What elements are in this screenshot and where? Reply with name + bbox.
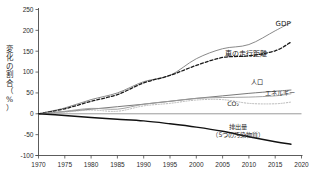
series-emissions-five-pollutants <box>39 114 291 144</box>
series-GDP <box>39 22 291 113</box>
y-tick-label: 0 <box>30 110 34 117</box>
y-tick-label: 200 <box>23 27 34 34</box>
x-tick-label: 1970 <box>31 161 46 168</box>
x-tick-label: 1980 <box>84 161 99 168</box>
y-tick-label: 100 <box>23 68 34 75</box>
x-tick-label: 1985 <box>110 161 125 168</box>
x-tick-label: 2000 <box>189 161 204 168</box>
series-line-GDP <box>39 22 291 113</box>
x-tick-label: 2020 <box>294 161 309 168</box>
series-label-co2: CO₂ <box>227 100 239 107</box>
y-tick-label: 250 <box>23 6 34 13</box>
series-line-emissions-five-pollutants <box>39 114 291 144</box>
chart-container: -100-50050100150200250197019751980198519… <box>0 0 315 182</box>
x-tick-label: 2005 <box>215 161 230 168</box>
x-tick-label: 1975 <box>58 161 73 168</box>
x-tick-label: 2015 <box>268 161 283 168</box>
series-label-population: 人口 <box>251 78 263 86</box>
y-tick-label: 150 <box>23 48 34 55</box>
series-label-GDP: GDP <box>276 20 291 28</box>
y-tick-label: -100 <box>20 152 33 159</box>
y-axis-title-char: ） <box>6 104 13 113</box>
line-chart: -100-50050100150200250197019751980198519… <box>0 0 315 182</box>
series-label-energy: エネルギー <box>265 89 295 96</box>
series-label-emissions-five-pollutants-line2: （5つの汚染物質） <box>212 131 264 139</box>
x-tick-label: 2010 <box>242 161 257 168</box>
x-tick-label: 1995 <box>163 161 178 168</box>
y-tick-label: -50 <box>24 131 34 138</box>
series-label-emissions-five-pollutants: 排出量 <box>229 123 247 131</box>
series-label-vehicle-miles-traveled: 車の走行距離 <box>225 49 267 58</box>
x-tick-label: 1990 <box>136 161 151 168</box>
y-tick-label: 50 <box>26 89 34 96</box>
